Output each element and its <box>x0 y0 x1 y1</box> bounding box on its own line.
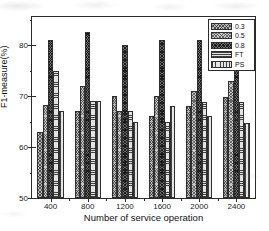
legend-swatch-icon <box>211 23 232 30</box>
legend-item-FT[interactable]: FT <box>211 51 252 59</box>
y-axis-tick-inner <box>32 45 36 46</box>
y-axis-minor-tick <box>30 71 33 72</box>
y-axis-tick-label: 50 <box>19 194 28 203</box>
figure-bar-chart: F1-measure(%) Number of service operatio… <box>0 0 269 231</box>
y-axis-title: F1-measure(%) <box>0 45 9 108</box>
x-axis-minor-tick <box>69 198 70 201</box>
legend-item-PS[interactable]: PS <box>211 60 252 68</box>
y-axis-tick-inner <box>32 96 36 97</box>
x-axis-minor-tick <box>144 198 145 201</box>
x-axis-minor-tick <box>106 198 107 201</box>
legend-item-label: FT <box>235 51 244 58</box>
y-axis-tick-inner <box>32 198 36 199</box>
legend-item-0.3[interactable]: 0.3 <box>211 22 252 30</box>
legend-item-label: 0.5 <box>235 32 245 39</box>
x-axis-tick-label: 800 <box>81 202 94 211</box>
legend-swatch-icon <box>211 32 232 39</box>
x-axis-title: Number of service operation <box>31 212 256 223</box>
x-axis-minor-tick <box>218 198 219 201</box>
chart-legend: 0.30.50.8FTPS <box>208 19 255 71</box>
bar-1200-PS <box>133 122 138 198</box>
y-axis-minor-tick <box>30 20 33 21</box>
x-axis-tick-label: 1600 <box>153 202 171 211</box>
y-axis-tick-label: 80 <box>19 41 28 50</box>
x-axis-tick-label: 2000 <box>190 202 208 211</box>
legend-swatch-icon <box>211 61 232 68</box>
y-axis-tick-label: 70 <box>19 92 28 101</box>
bar-2400-PS <box>244 123 249 198</box>
x-axis-tick-label: 400 <box>44 202 57 211</box>
bar-400-PS <box>59 111 64 198</box>
y-axis-minor-tick <box>30 173 33 174</box>
legend-item-label: PS <box>235 61 244 68</box>
x-axis-minor-tick <box>181 198 182 201</box>
y-axis-tick-inner <box>32 147 36 148</box>
y-axis-minor-tick <box>30 122 33 123</box>
bar-1600-PS <box>170 106 175 198</box>
bar-800-PS <box>96 101 101 198</box>
legend-item-0.5[interactable]: 0.5 <box>211 32 252 40</box>
legend-item-0.8[interactable]: 0.8 <box>211 41 252 49</box>
bar-2000-PS <box>207 116 212 198</box>
x-axis-tick-label: 2400 <box>228 202 246 211</box>
y-axis-tick-label: 60 <box>19 143 28 152</box>
legend-swatch-icon <box>211 42 232 49</box>
legend-swatch-icon <box>211 51 232 58</box>
x-axis-tick-label: 1200 <box>116 202 134 211</box>
legend-item-label: 0.3 <box>235 23 245 30</box>
legend-item-label: 0.8 <box>235 42 245 49</box>
